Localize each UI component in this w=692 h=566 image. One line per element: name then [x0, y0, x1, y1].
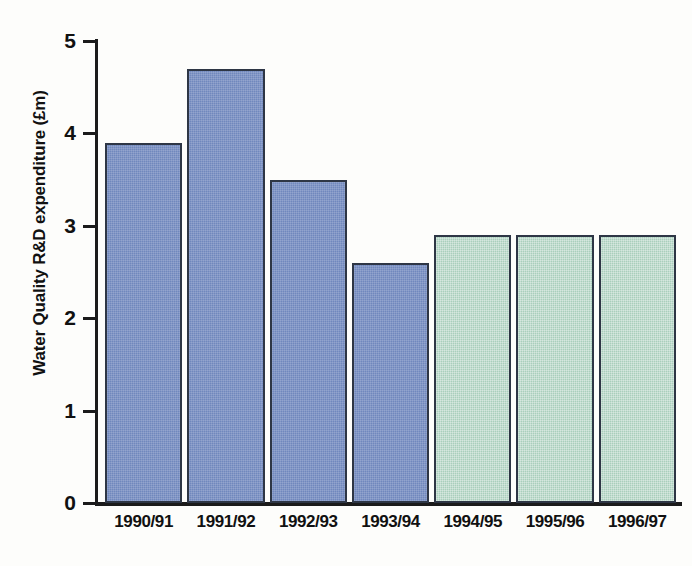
x-tick-label: 1993/94 [348, 512, 433, 532]
y-tick-mark [83, 132, 97, 135]
x-tick-label: 1996/97 [595, 512, 680, 532]
y-tick-label: 3 [48, 215, 76, 236]
y-tick-label: 4 [48, 122, 76, 143]
x-tick-label: 1992/93 [266, 512, 351, 532]
bar-1996-97[interactable] [599, 235, 676, 503]
y-tick-label: 2 [48, 307, 76, 328]
y-tick-label: 5 [48, 30, 76, 51]
bar-1993-94[interactable] [352, 263, 429, 503]
y-tick-mark [83, 225, 97, 228]
y-axis-line [95, 39, 98, 505]
x-tick-label: 1991/92 [183, 512, 268, 532]
y-tick-label: 0 [48, 492, 76, 513]
y-tick-label: 1 [48, 400, 76, 421]
bar-1992-93[interactable] [270, 180, 347, 503]
bar-1991-92[interactable] [187, 69, 264, 503]
y-tick-mark [83, 410, 97, 413]
y-tick-mark [83, 317, 97, 320]
bar-1995-96[interactable] [516, 235, 593, 503]
x-tick-label: 1995/96 [512, 512, 597, 532]
x-tick-label: 1990/91 [101, 512, 186, 532]
bar-1994-95[interactable] [434, 235, 511, 503]
plot-area [105, 41, 681, 503]
bar-1990-91[interactable] [105, 143, 182, 503]
bar-chart-figure: Water Quality R&D expenditure (£m) 01234… [0, 0, 692, 566]
y-tick-mark [83, 502, 97, 505]
y-tick-mark [83, 40, 97, 43]
x-tick-label: 1994/95 [430, 512, 515, 532]
